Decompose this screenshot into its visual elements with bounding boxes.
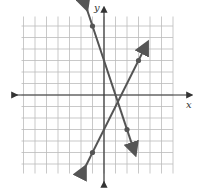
data-point — [124, 127, 129, 132]
x-axis-label: x — [186, 99, 192, 110]
data-point — [136, 58, 141, 63]
coordinate-plane — [0, 0, 205, 195]
data-point — [90, 23, 95, 28]
y-axis-label: y — [94, 2, 100, 13]
data-point — [90, 150, 95, 155]
